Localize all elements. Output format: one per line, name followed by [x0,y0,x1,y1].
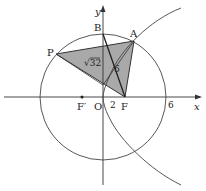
label-f: F [121,101,128,112]
segment-label-pf: √32 [84,58,101,68]
y-axis-arrow-icon [101,5,106,12]
label-p: P [47,47,54,58]
segment-label-bf: 6 [114,64,120,74]
label-b: B [94,22,101,33]
x-axis-label: x [194,101,200,112]
label-o: O [94,101,102,112]
label-a: A [129,28,138,39]
tick-label-2: 2 [110,100,116,110]
tick-label-6: 6 [168,100,174,110]
y-axis-label: y [94,6,101,17]
diagram-canvas: x y B A P O F F′ 2 6 6 √32 [0,0,206,191]
x-axis-arrow-icon [195,95,202,100]
label-f-prime: F′ [77,101,87,112]
point-f-prime [81,96,84,99]
